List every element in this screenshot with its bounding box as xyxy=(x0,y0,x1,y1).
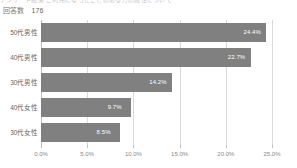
category-label: 40代男性 xyxy=(0,54,38,62)
x-tick-mark xyxy=(180,145,181,148)
x-axis: 0.0%5.0%10.0%15.0%20.0%25.0% xyxy=(41,145,272,165)
x-tick-label: 15.0% xyxy=(171,150,188,158)
bar[interactable] xyxy=(41,48,251,67)
category-axis: 50代男性40代男性30代男性40代女性30代女性 xyxy=(0,20,38,145)
bar-value-label: 8.5% xyxy=(97,123,111,142)
clipped-title-text: アンケート結果 ご利用になったことのある方の属性について xyxy=(0,0,172,3)
category-label: 30代女性 xyxy=(0,129,38,137)
bar-row: 8.5% xyxy=(41,120,272,145)
category-label: 40代女性 xyxy=(0,104,38,112)
x-tick-label: 10.0% xyxy=(125,150,142,158)
category-label: 30代男性 xyxy=(0,79,38,87)
x-tick-label: 5.0% xyxy=(80,150,94,158)
x-tick-mark xyxy=(41,145,42,148)
response-count-label: 回答数 xyxy=(3,6,25,15)
bar-row: 9.7% xyxy=(41,95,272,120)
bar-chart: 50代男性40代男性30代男性40代女性30代女性 24.4%22.7%14.2… xyxy=(0,18,297,168)
plot-area: 24.4%22.7%14.2%9.7%8.5% xyxy=(41,20,272,145)
x-tick-label: 0.0% xyxy=(34,150,48,158)
gridline xyxy=(272,20,273,145)
x-tick-mark xyxy=(226,145,227,148)
response-count-header: 回答数 176 xyxy=(3,5,43,16)
bar-value-label: 22.7% xyxy=(228,48,246,67)
bar-row: 14.2% xyxy=(41,70,272,95)
bar-value-label: 14.2% xyxy=(149,73,167,92)
x-tick-mark xyxy=(272,145,273,148)
bar-row: 24.4% xyxy=(41,20,272,45)
response-count-value: 176 xyxy=(32,6,44,15)
clipped-title: アンケート結果 ご利用になったことのある方の属性について xyxy=(0,0,297,5)
category-label: 50代男性 xyxy=(0,29,38,37)
x-tick-mark xyxy=(87,145,88,148)
bar-value-label: 9.7% xyxy=(108,98,122,117)
x-tick-label: 20.0% xyxy=(217,150,234,158)
bar-value-label: 24.4% xyxy=(243,23,261,42)
bar[interactable] xyxy=(41,23,266,42)
x-tick-label: 25.0% xyxy=(263,150,280,158)
bar-row: 22.7% xyxy=(41,45,272,70)
x-tick-mark xyxy=(133,145,134,148)
